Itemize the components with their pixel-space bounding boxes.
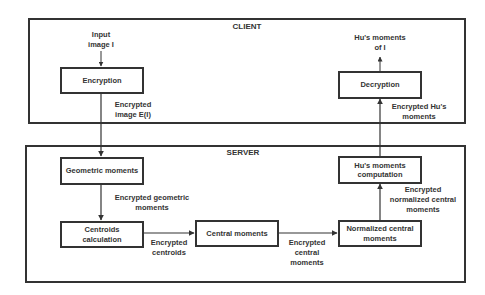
central-moments-node: Central moments bbox=[195, 220, 279, 247]
encrypted-image-label: Encrypted image E(I) bbox=[108, 100, 158, 120]
encryption-node: Encryption bbox=[60, 67, 144, 94]
encrypted-normalized-central-moments-label: Encrypted normalized central moments bbox=[382, 185, 464, 214]
output-hus-moments-label: Hu's moments of I bbox=[348, 33, 412, 53]
decryption-node: Decryption bbox=[338, 71, 422, 99]
encrypted-centroids-label: Encrypted centroids bbox=[143, 238, 195, 258]
encrypted-geometric-moments-label: Encrypted geometric moments bbox=[106, 193, 198, 213]
encrypted-central-moments-label: Encrypted central moments bbox=[282, 238, 332, 267]
encrypted-hus-moments-label: Encrypted Hu's moments bbox=[383, 102, 455, 122]
centroids-calculation-node: Centroids calculation bbox=[60, 221, 144, 248]
edges-layer bbox=[0, 0, 485, 295]
input-image-label: Input image I bbox=[76, 30, 126, 50]
geometric-moments-node: Geometric moments bbox=[60, 157, 144, 185]
hus-moments-computation-node: Hu's moments computation bbox=[338, 156, 422, 184]
normalized-central-moments-node: Normalized central moments bbox=[338, 220, 422, 247]
